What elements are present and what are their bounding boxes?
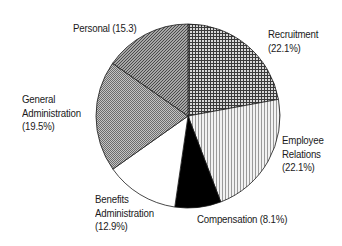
label-employee-relations-line1: Employee bbox=[282, 134, 324, 148]
label-personal-text: Personal (15.3) bbox=[73, 22, 137, 36]
label-benefits-line2: Administration bbox=[95, 207, 154, 221]
label-general-line1: General bbox=[22, 93, 81, 107]
label-employee-relations-value: (22.1%) bbox=[282, 161, 324, 175]
label-general-value: (19.5%) bbox=[22, 120, 81, 134]
label-employee-relations-line2: Relations bbox=[282, 148, 324, 162]
label-compensation-text: Compensation (8.1%) bbox=[197, 213, 287, 227]
label-general-line2: Administration bbox=[22, 107, 81, 121]
pie-slices bbox=[96, 24, 280, 208]
label-personal: Personal (15.3) bbox=[73, 22, 137, 36]
label-recruitment: Recruitment (22.1%) bbox=[268, 28, 318, 55]
label-benefits-administration: Benefits Administration (12.9%) bbox=[95, 193, 154, 234]
label-benefits-value: (12.9%) bbox=[95, 220, 154, 234]
label-general-administration: General Administration (19.5%) bbox=[22, 93, 81, 134]
label-compensation: Compensation (8.1%) bbox=[197, 213, 287, 227]
label-recruitment-value: (22.1%) bbox=[268, 42, 318, 56]
label-recruitment-name: Recruitment bbox=[268, 28, 318, 42]
label-employee-relations: Employee Relations (22.1%) bbox=[282, 134, 324, 175]
label-benefits-line1: Benefits bbox=[95, 193, 154, 207]
